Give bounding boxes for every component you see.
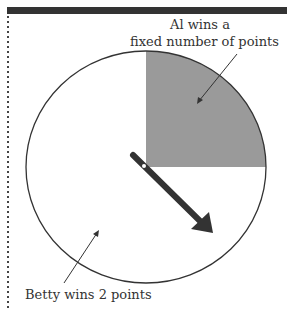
al-quadrant (146, 51, 266, 167)
spinner-diagram: Al wins a fixed number of points Betty w… (0, 0, 287, 309)
al-label-line2: fixed number of points (130, 34, 279, 49)
al-label-line1: Al wins a (170, 17, 230, 32)
needle-pivot (142, 164, 146, 168)
betty-label: Betty wins 2 points (25, 287, 152, 302)
betty-pointer-arrowhead-icon (93, 230, 99, 237)
betty-pointer-line (64, 233, 97, 283)
